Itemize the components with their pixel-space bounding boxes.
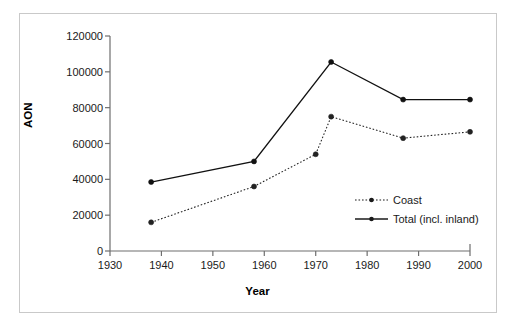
y-tick-label: 120000 — [40, 30, 103, 42]
y-tick-label: 20000 — [40, 209, 103, 221]
x-tick-label: 1990 — [406, 259, 430, 271]
legend-marker-2 — [369, 217, 374, 222]
legend-label-2: Total (incl. inland) — [393, 213, 479, 225]
legend-marker-1 — [369, 198, 374, 203]
data-point — [252, 159, 257, 164]
data-point — [468, 129, 473, 134]
chart-figure: 020000400006000080000100000120000 193019… — [0, 0, 515, 329]
data-point — [468, 97, 473, 102]
y-tick-label: 80000 — [40, 102, 103, 114]
series-1 — [149, 114, 473, 225]
legend-symbols — [355, 198, 388, 222]
y-tick-marks — [105, 36, 110, 251]
data-point — [401, 97, 406, 102]
x-tick-label: 1930 — [98, 259, 122, 271]
plot-area — [0, 0, 515, 329]
y-tick-label: 60000 — [40, 138, 103, 150]
legend-label-1: Coast — [393, 194, 422, 206]
y-tick-label: 100000 — [40, 66, 103, 78]
y-tick-label: 0 — [40, 245, 103, 257]
x-tick-label: 1970 — [303, 259, 327, 271]
data-point — [252, 184, 257, 189]
data-point — [149, 220, 154, 225]
data-point — [329, 114, 334, 119]
x-tick-label: 1960 — [252, 259, 276, 271]
x-tick-label: 1980 — [355, 259, 379, 271]
x-axis-title: Year — [0, 285, 515, 297]
series-2 — [149, 59, 473, 184]
y-tick-label: 40000 — [40, 173, 103, 185]
y-axis-title: AON — [22, 102, 34, 128]
series-line — [151, 117, 470, 223]
x-tick-label: 1950 — [201, 259, 225, 271]
data-point — [313, 152, 318, 157]
data-point — [329, 59, 334, 64]
data-point — [149, 180, 154, 185]
x-tick-label: 1940 — [149, 259, 173, 271]
series-line — [151, 62, 470, 182]
x-tick-marks — [110, 251, 470, 256]
data-series-layer — [149, 59, 473, 224]
x-tick-label: 2000 — [458, 259, 482, 271]
data-point — [401, 136, 406, 141]
